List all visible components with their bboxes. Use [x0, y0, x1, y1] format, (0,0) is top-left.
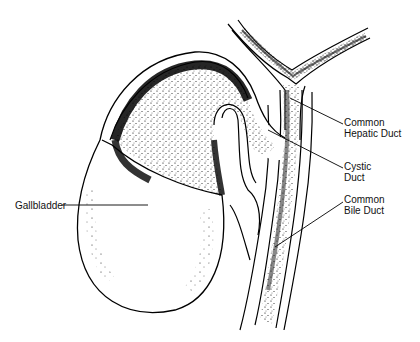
label-common-bile-duct-line1: Common	[344, 194, 385, 205]
label-cystic-duct-line2: Duct	[344, 172, 371, 183]
label-common-bile-duct: Common Bile Duct	[344, 194, 385, 216]
label-common-hepatic-duct-line2: Hepatic Duct	[344, 128, 401, 139]
label-common-hepatic-duct-line1: Common	[344, 117, 401, 128]
label-cystic-duct-line1: Cystic	[344, 161, 371, 172]
label-cystic-duct: Cystic Duct	[344, 161, 371, 183]
label-gallbladder: Gallbladder	[15, 200, 66, 211]
label-common-hepatic-duct: Common Hepatic Duct	[344, 117, 401, 139]
gallbladder-shape	[77, 52, 285, 313]
label-common-bile-duct-line2: Bile Duct	[344, 205, 385, 216]
label-gallbladder-text: Gallbladder	[15, 200, 66, 211]
